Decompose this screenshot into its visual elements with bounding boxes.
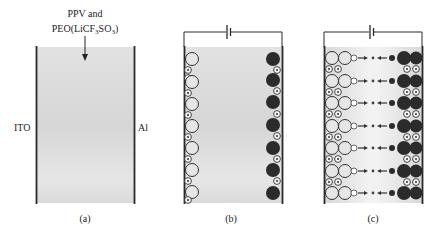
polymer-film — [37, 47, 134, 203]
material-label-line1: PPV and — [67, 8, 102, 19]
battery-icon — [227, 25, 231, 39]
battery-icon — [370, 25, 374, 39]
caption-a: (a) — [79, 213, 90, 225]
panel-a: PPV and PEO(LiCF3SO3) ITO Al (a) — [14, 8, 148, 225]
circuit-wire — [184, 32, 282, 47]
al-label: Al — [138, 122, 148, 133]
lec-diagram: PPV and PEO(LiCF3SO3) ITO Al (a) — [0, 0, 439, 238]
panel-b: (b) — [184, 25, 283, 225]
panel-c: (c) — [324, 25, 423, 225]
caption-c: (c) — [367, 213, 378, 225]
caption-b: (b) — [225, 213, 237, 225]
material-label-line2: PEO(LiCF3SO3) — [52, 23, 118, 36]
ito-label: ITO — [14, 122, 30, 133]
